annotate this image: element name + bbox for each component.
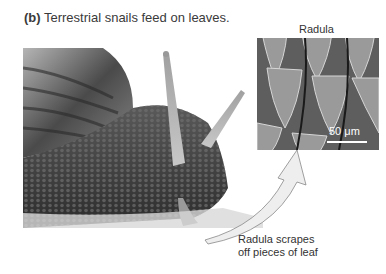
- scale-bar: [327, 141, 367, 143]
- callout-line-1: Radula scrapes: [238, 233, 318, 246]
- figure-caption: (b) Terrestrial snails feed on leaves.: [24, 10, 230, 25]
- panel-label: (b): [24, 10, 41, 25]
- radula-micrograph: [257, 38, 379, 150]
- scale-bar-label: 50 μm: [329, 125, 360, 137]
- caption-text: Terrestrial snails feed on leaves.: [41, 10, 230, 25]
- inset-title: Radula: [299, 23, 334, 35]
- radula-callout: Radula scrapes off pieces of leaf: [238, 233, 318, 259]
- snail-photo: [23, 48, 263, 228]
- callout-line-2: off pieces of leaf: [238, 246, 318, 259]
